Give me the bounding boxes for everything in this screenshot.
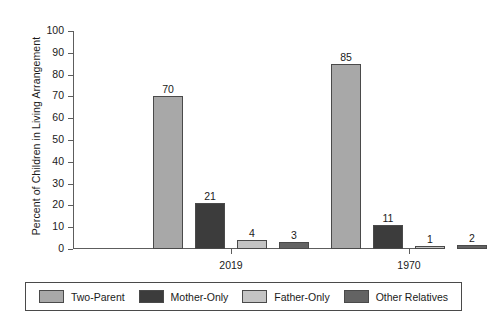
y-axis-tick-label: 30: [52, 177, 64, 189]
bar-value-label: 3: [291, 229, 297, 241]
y-axis-tick: 0: [68, 249, 73, 250]
legend-item: Other Relatives: [344, 290, 448, 303]
y-axis-tick: 50: [68, 140, 73, 141]
legend-item: Father-Only: [242, 290, 329, 303]
y-axis-tick-label: 40: [52, 155, 64, 167]
bar-value-label: 85: [340, 51, 352, 63]
legend-swatch-icon: [39, 290, 64, 303]
y-axis-line: [73, 31, 74, 249]
y-axis-tick-label: 50: [52, 133, 64, 145]
y-axis-tick: 30: [68, 184, 73, 185]
y-axis-tick: 80: [68, 75, 73, 76]
y-axis-tick: 20: [68, 205, 73, 206]
bar-value-label: 4: [249, 227, 255, 239]
bar: 1: [415, 246, 445, 249]
y-axis-tick-label: 10: [52, 220, 64, 232]
y-axis-tick: 40: [68, 162, 73, 163]
y-axis-tick-label: 70: [52, 89, 64, 101]
y-axis-tick-label: 20: [52, 198, 64, 210]
x-axis-group-label: 1970: [397, 259, 420, 271]
y-axis-tick-label: 90: [52, 46, 64, 58]
x-axis-group-label: 2019: [219, 259, 242, 271]
y-axis-tick: 60: [68, 118, 73, 119]
legend-swatch-icon: [139, 290, 164, 303]
y-axis-tick: 70: [68, 96, 73, 97]
bar-value-label: 2: [469, 232, 475, 244]
y-axis-tick-label: 0: [58, 242, 64, 254]
y-axis-tick-label: 100: [46, 24, 64, 36]
bar: 11: [373, 225, 403, 249]
bar: 2: [457, 245, 487, 249]
chart-legend: Two-ParentMother-OnlyFather-OnlyOther Re…: [25, 282, 462, 311]
bar-value-label: 21: [204, 190, 216, 202]
y-axis-tick: 100: [68, 31, 73, 32]
legend-label: Mother-Only: [171, 291, 229, 303]
legend-item: Mother-Only: [139, 290, 229, 303]
legend-label: Two-Parent: [71, 291, 125, 303]
y-axis-title: Percent of Children in Living Arrangemen…: [30, 21, 42, 251]
legend-swatch-icon: [344, 290, 369, 303]
y-axis-tick-label: 60: [52, 111, 64, 123]
bar: 21: [195, 203, 225, 249]
bar-value-label: 11: [383, 212, 394, 224]
bar-value-label: 1: [427, 233, 433, 245]
plot-area: 0102030405060708090100 702143851112 2019…: [73, 31, 438, 249]
bar: 3: [279, 242, 309, 249]
legend-label: Father-Only: [274, 291, 329, 303]
bar: 4: [237, 240, 267, 249]
y-axis-tick: 10: [68, 227, 73, 228]
y-axis-tick: 90: [68, 53, 73, 54]
bar: 70: [153, 96, 183, 249]
legend-item: Two-Parent: [39, 290, 125, 303]
bar-value-label: 70: [162, 83, 174, 95]
bar: 85: [331, 64, 361, 249]
x-axis-tick: [231, 249, 232, 254]
legend-label: Other Relatives: [376, 291, 448, 303]
y-axis-tick-label: 80: [52, 68, 64, 80]
x-axis-tick: [409, 249, 410, 254]
legend-swatch-icon: [242, 290, 267, 303]
